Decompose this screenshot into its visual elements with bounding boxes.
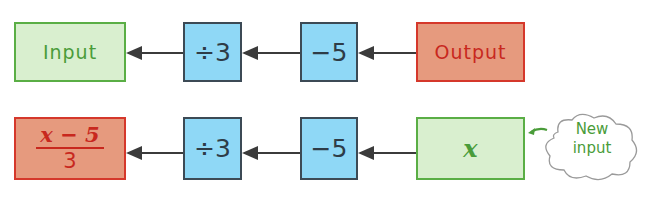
fraction-denominator: 3 [63, 149, 76, 173]
divide-3-label: ÷3 [194, 38, 231, 67]
x-input-box: x [416, 117, 525, 180]
x-label: x [463, 134, 477, 163]
arrow-left [128, 52, 183, 54]
arrow-left [128, 152, 183, 154]
minus-5-box: −5 [300, 22, 358, 82]
output-label: Output [435, 41, 507, 63]
arrow-left [244, 52, 300, 54]
callout-line-1: New [540, 120, 644, 139]
output-box: Output [416, 22, 525, 82]
minus-5-box: −5 [300, 117, 358, 180]
callout-line-2: input [540, 139, 644, 158]
minus-5-label: −5 [311, 38, 348, 67]
result-box: x − 5 3 [14, 117, 126, 180]
result-fraction: x − 5 3 [36, 124, 103, 173]
input-label: Input [43, 41, 97, 63]
divide-3-box: ÷3 [183, 117, 242, 180]
divide-3-label: ÷3 [194, 134, 231, 163]
input-box: Input [14, 22, 126, 82]
divide-3-box: ÷3 [183, 22, 242, 82]
minus-5-label: −5 [311, 134, 348, 163]
arrow-left [360, 152, 416, 154]
arrow-left [360, 52, 416, 54]
fraction-numerator: x − 5 [36, 124, 103, 149]
arrow-left [244, 152, 300, 154]
callout-text: New input [540, 120, 644, 158]
